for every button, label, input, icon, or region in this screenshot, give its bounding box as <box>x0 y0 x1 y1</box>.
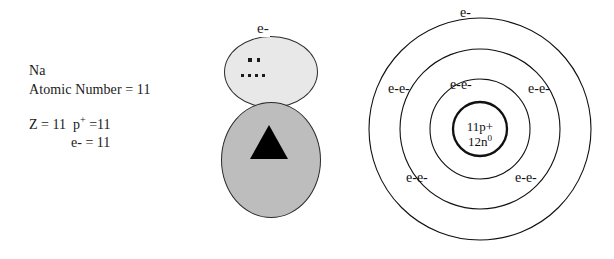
atom-diagram-page: Na Atomic Number = 11 Z = 11 p+ =11 e- =… <box>0 0 614 259</box>
bohr-model-figure: 11p+ 12n0 e- e-e- e-e- e-e- e-e- e-e- <box>352 0 610 259</box>
atomic-number-label: Atomic Number = 11 <box>29 81 219 100</box>
element-symbol-label: Na <box>29 62 219 81</box>
shell-electron-label-top: e- <box>460 6 471 20</box>
electron-dot <box>248 58 252 62</box>
electron-dot-row-bottom <box>241 74 265 77</box>
electron-dot <box>255 74 258 77</box>
element-info-panel: Na Atomic Number = 11 Z = 11 p+ =11 e- =… <box>29 62 219 153</box>
shell-electron-label-bottom-left: e-e- <box>406 171 428 185</box>
proton-count-label: Z = 11 p+ =11 <box>29 116 219 135</box>
shell-electron-label-mid-right: e-e- <box>528 82 550 96</box>
shell-electron-label-mid-left: e-e- <box>388 82 410 96</box>
electron-count-label: e- = 11 <box>29 134 219 153</box>
neutron-count-text: 12n0 <box>456 134 504 149</box>
proton-count-suffix: =11 <box>86 117 111 132</box>
electron-dot <box>262 74 265 77</box>
shell-electron-label-mid-center: e-e- <box>450 78 472 92</box>
electron-dot <box>257 58 261 62</box>
proton-count-text: 11p+ <box>456 119 504 134</box>
nucleus-core-ellipse <box>221 102 321 218</box>
abstract-atom-figure: e- <box>210 22 335 222</box>
outer-shell-ellipse <box>224 36 318 108</box>
proton-count-prefix: Z = 11 p <box>29 117 80 132</box>
electron-dot <box>248 74 251 77</box>
charge-summary-block: Z = 11 p+ =11 e- = 11 <box>29 116 219 154</box>
neutron-charge-superscript: 0 <box>487 133 492 143</box>
nucleus-triangle-icon <box>250 125 288 159</box>
electron-dot-row-top <box>248 58 260 62</box>
neutron-count-prefix: 12n <box>468 134 488 149</box>
nucleus-composition-label: 11p+ 12n0 <box>456 119 504 150</box>
electron-dot <box>241 74 244 77</box>
shell-electron-label-bottom-right: e-e- <box>515 171 537 185</box>
blob-electron-label: e- <box>256 20 270 37</box>
